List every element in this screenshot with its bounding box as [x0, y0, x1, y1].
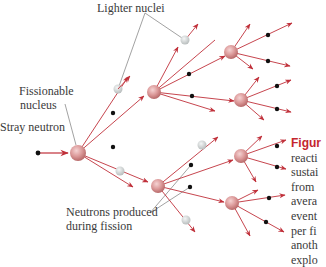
- caption-line: explo: [291, 253, 326, 267]
- nucleus: [225, 196, 239, 210]
- nucleus: [234, 93, 248, 107]
- light-nucleus: [116, 167, 125, 176]
- neutron: [111, 145, 115, 149]
- light-nucleus-arrows: [118, 76, 130, 89]
- light-nucleus: [182, 216, 191, 225]
- nucleus: [147, 85, 161, 99]
- generation-2-upper-arrows: [154, 24, 234, 111]
- nucleus: [224, 45, 238, 59]
- label-stray-neutron: Stray neutron: [0, 120, 65, 134]
- generation-3-arrows: [231, 23, 292, 236]
- neutron: [187, 72, 191, 76]
- fissionable-nucleus: [70, 145, 86, 161]
- nucleus: [234, 149, 248, 163]
- neutron: [189, 163, 193, 167]
- caption-line: sustai: [291, 165, 326, 180]
- figure-caption: Figur reacti sustai from avera event per…: [291, 136, 326, 267]
- light-nucleus: [181, 36, 190, 45]
- generation-1-arrows: [78, 77, 148, 187]
- generation-2-lower-arrows: [158, 137, 233, 232]
- caption-line: anoth: [291, 238, 326, 253]
- label-neutrons-line2: during fission: [66, 219, 158, 233]
- caption-line: from: [291, 180, 326, 195]
- label-lighter-nuclei: Lighter nuclei: [97, 1, 165, 15]
- caption-line: avera: [291, 194, 326, 209]
- nucleus: [151, 179, 165, 193]
- neutron: [190, 94, 194, 98]
- caption-line: per fi: [291, 224, 326, 239]
- neutron: [111, 111, 115, 115]
- label-fissionable-line1: Fissionable: [19, 84, 74, 98]
- label-fissionable-nucleus: Fissionable nucleus: [19, 84, 74, 112]
- light-nucleus: [198, 141, 207, 150]
- stray-neutron: [36, 151, 68, 156]
- caption-line: event: [291, 209, 326, 224]
- pointer-lines: [65, 13, 191, 213]
- label-neutrons-line1: Neutrons produced: [66, 205, 158, 219]
- neutron: [188, 185, 192, 189]
- figure-label: Figur: [291, 136, 326, 151]
- label-neutrons-produced: Neutrons produced during fission: [66, 205, 158, 233]
- caption-line: reacti: [291, 151, 326, 166]
- label-fissionable-line2: nucleus: [19, 98, 74, 112]
